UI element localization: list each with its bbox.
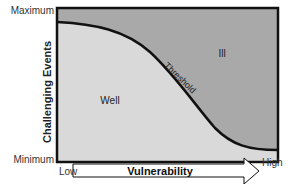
x-high-label: High [262,157,283,168]
well-label: Well [100,95,119,106]
y-max-label: Maximum [11,5,54,16]
y-axis-label: Challenging Events [41,41,53,143]
ill-label: Ill [218,48,225,59]
x-axis-label: Vulnerability [127,165,193,177]
y-min-label: Minimum [13,154,54,165]
x-low-label: Low [59,166,78,177]
threshold-diagram: Maximum Minimum Challenging Events Well … [0,0,292,184]
